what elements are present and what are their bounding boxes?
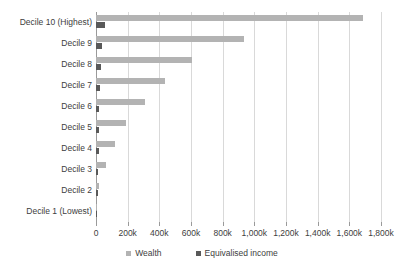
x-axis-tick-labels: 0200k400k600k800k1,000k1,200k1,400k1,600… (0, 227, 404, 241)
bar-wealth (96, 141, 115, 147)
y-axis-label: Decile 9 (0, 33, 92, 54)
x-axis-tick-label: 800k (213, 227, 231, 239)
x-axis-tick-label: 1,400k (305, 227, 331, 239)
legend-label: Wealth (135, 248, 161, 258)
x-axis-tick (191, 222, 192, 226)
bar-row (96, 33, 381, 54)
x-axis-ticks (96, 222, 381, 226)
bar-row (96, 75, 381, 96)
y-axis-label: Decile 2 (0, 180, 92, 201)
bar-row (96, 12, 381, 33)
x-axis-tick-label: 1,200k (273, 227, 299, 239)
y-axis-label: Decile 7 (0, 75, 92, 96)
bar-income (96, 64, 101, 70)
x-axis-tick (381, 222, 382, 226)
bar-income (96, 190, 98, 196)
bar-wealth (96, 120, 126, 126)
bar-row (96, 117, 381, 138)
y-axis-label: Decile 1 (Lowest) (0, 201, 92, 222)
gridline (381, 12, 382, 222)
x-axis-tick (159, 222, 160, 226)
x-axis-tick-label: 400k (150, 227, 168, 239)
bar-wealth (96, 36, 244, 42)
y-axis-label: Decile 4 (0, 138, 92, 159)
y-axis-label: Decile 10 (Highest) (0, 12, 92, 33)
legend-item[interactable]: Wealth (126, 248, 161, 258)
bar-income (96, 43, 102, 49)
bar-row (96, 138, 381, 159)
x-axis-tick (254, 222, 255, 226)
x-axis-tick (96, 222, 97, 226)
bar-income (96, 85, 100, 91)
bar-chart: Decile 10 (Highest)Decile 9Decile 8Decil… (0, 0, 404, 270)
bar-wealth (96, 57, 192, 63)
x-axis-tick-label: 600k (182, 227, 200, 239)
x-axis-tick-label: 1,600k (337, 227, 363, 239)
bar-rows (96, 12, 381, 222)
x-axis-tick (318, 222, 319, 226)
chart-legend: WealthEquivalised income (0, 248, 404, 258)
bar-income (96, 211, 97, 217)
x-axis-tick (128, 222, 129, 226)
y-axis-label: Decile 6 (0, 96, 92, 117)
legend-label: Equivalised income (205, 248, 278, 258)
bar-wealth (96, 15, 363, 21)
bar-income (96, 169, 98, 175)
bar-row (96, 159, 381, 180)
bar-row (96, 54, 381, 75)
y-axis-label: Decile 8 (0, 54, 92, 75)
bar-row (96, 96, 381, 117)
bar-wealth (96, 204, 97, 210)
x-axis-tick-label: 200k (118, 227, 136, 239)
plot-area (96, 12, 381, 222)
y-axis-labels: Decile 10 (Highest)Decile 9Decile 8Decil… (0, 12, 92, 222)
bar-wealth (96, 162, 106, 168)
legend-swatch-icon (196, 251, 201, 256)
bar-income (96, 22, 105, 28)
x-axis-tick-label: 1,800k (368, 227, 394, 239)
x-axis-tick (223, 222, 224, 226)
bar-wealth (96, 183, 99, 189)
x-axis-tick-label: 0 (94, 227, 99, 239)
x-axis-tick (286, 222, 287, 226)
legend-swatch-icon (126, 251, 131, 256)
x-axis-tick-label: 1,000k (242, 227, 268, 239)
bar-income (96, 106, 99, 112)
bar-income (96, 148, 99, 154)
x-axis-tick (349, 222, 350, 226)
y-axis-label: Decile 3 (0, 159, 92, 180)
y-axis-label: Decile 5 (0, 117, 92, 138)
bar-wealth (96, 99, 145, 105)
bar-income (96, 127, 99, 133)
bar-wealth (96, 78, 165, 84)
bar-row (96, 180, 381, 201)
bar-row (96, 201, 381, 222)
legend-item[interactable]: Equivalised income (196, 248, 278, 258)
